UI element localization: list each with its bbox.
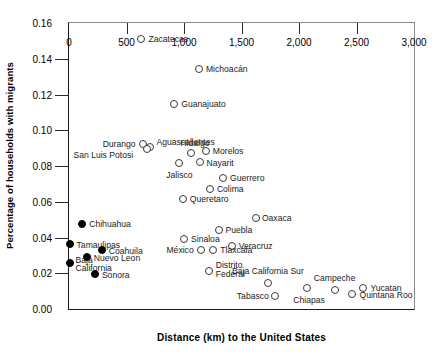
data-point-nayarit[interactable] <box>196 158 204 166</box>
data-point-tabasco[interactable] <box>271 292 279 300</box>
data-point-oaxaca[interactable] <box>252 214 260 222</box>
x-axis-tick <box>184 23 185 34</box>
data-point-m-xico[interactable] <box>197 246 205 254</box>
y-axis-tick-label: 0.06 <box>33 196 52 207</box>
data-point-baja-california-sur[interactable] <box>264 279 272 287</box>
data-point-label: Sonora <box>102 271 130 280</box>
data-point-label: Queretaro <box>190 195 229 204</box>
y-axis-tick-label: 0.08 <box>33 161 52 172</box>
data-point-baja-california[interactable] <box>66 259 74 267</box>
data-point-quintana-roo[interactable] <box>348 290 356 298</box>
y-axis-tick <box>55 23 69 24</box>
x-axis-title-text: Distance (km) to the United States <box>157 332 326 343</box>
data-point-label: Tlaxcala <box>220 246 252 255</box>
y-axis-tick <box>55 273 69 274</box>
data-point-tamaulipas[interactable] <box>66 240 74 248</box>
data-point-hidalgo[interactable] <box>187 149 195 157</box>
x-axis-tick-label: 3,000 <box>401 37 426 48</box>
y-axis-tick-label: 0.10 <box>33 125 52 136</box>
data-point-queretaro[interactable] <box>179 195 187 203</box>
data-point-label: Colima <box>217 185 244 194</box>
data-point-label: Chihuahua <box>89 220 131 229</box>
x-axis-tick-label: 1,500 <box>229 37 254 48</box>
plot-area: 0.000.020.040.060.080.100.120.140.160500… <box>68 22 415 310</box>
data-point-sonora[interactable] <box>91 270 99 278</box>
y-axis-tick-label: 0.16 <box>33 18 52 29</box>
data-point-label: Tabasco <box>237 291 269 300</box>
x-axis-tick-label: 2,500 <box>344 37 369 48</box>
y-axis-tick <box>55 130 69 131</box>
scatter-chart-figure: Percentage of households with migrants 0… <box>0 0 440 355</box>
data-point-chiapas[interactable] <box>303 284 311 292</box>
y-axis-tick-label: 0.04 <box>33 232 52 243</box>
data-point-label: Durango <box>103 139 136 148</box>
data-point-distrito-federal[interactable] <box>205 267 213 275</box>
data-point-morelos[interactable] <box>202 147 210 155</box>
x-axis-tick-label: 2,000 <box>286 37 311 48</box>
x-axis-tick-label: 0 <box>66 37 72 48</box>
y-axis-tick <box>55 309 69 310</box>
y-axis-tick-label: 0.02 <box>33 268 52 279</box>
data-point-label: México <box>166 246 193 255</box>
y-axis-tick <box>55 59 69 60</box>
y-axis-tick <box>55 95 69 96</box>
x-axis-tick <box>242 23 243 34</box>
data-point-label: San Luis Potosi <box>73 151 133 160</box>
x-axis-tick <box>299 23 300 34</box>
data-point-label: Guerrero <box>230 173 264 182</box>
data-point-label: Chiapas <box>293 296 325 305</box>
data-point-guerrero[interactable] <box>219 174 227 182</box>
data-point-campeche[interactable] <box>331 286 339 294</box>
data-point-label: Guanajuato <box>181 100 225 109</box>
data-point-label: Quintana Roo <box>359 290 412 299</box>
data-point-label: Jalisco <box>166 171 192 180</box>
y-axis-title-text: Percentage of households with migrants <box>4 62 15 249</box>
data-point-michoac-n[interactable] <box>195 65 203 73</box>
y-axis-tick <box>55 166 69 167</box>
x-axis-tick <box>357 23 358 34</box>
data-point-tlaxcala[interactable] <box>209 246 217 254</box>
data-point-san-luis-potosi[interactable] <box>143 145 151 153</box>
data-point-zacatecas[interactable] <box>137 35 145 43</box>
data-point-colima[interactable] <box>206 185 214 193</box>
data-point-label: Puebla <box>226 226 253 235</box>
data-point-chihuahua[interactable] <box>78 220 86 228</box>
y-axis-tick <box>55 202 69 203</box>
data-point-label: Baja California Sur <box>232 267 304 276</box>
x-axis-tick-label: 500 <box>118 37 135 48</box>
x-axis-title: Distance (km) to the United States <box>68 332 415 343</box>
data-point-jalisco[interactable] <box>175 159 183 167</box>
y-axis-title: Percentage of households with migrants <box>0 0 18 310</box>
data-point-label: Nayarit <box>207 158 234 167</box>
y-axis-tick-label: 0.14 <box>33 53 52 64</box>
y-axis-tick <box>55 238 69 239</box>
x-axis-tick <box>127 23 128 34</box>
data-point-label: Morelos <box>213 146 244 155</box>
data-point-label: Oaxaca <box>262 213 292 222</box>
y-axis-tick-label: 0.12 <box>33 89 52 100</box>
data-point-label: Sinaloa <box>191 235 220 244</box>
data-point-label: Michoacán <box>206 64 248 73</box>
data-point-label: Campeche <box>314 274 356 283</box>
data-point-guanajuato[interactable] <box>170 100 178 108</box>
y-axis-tick-label: 0.00 <box>33 304 52 315</box>
data-point-label: Zacatecas <box>148 35 188 44</box>
data-point-sinaloa[interactable] <box>180 235 188 243</box>
